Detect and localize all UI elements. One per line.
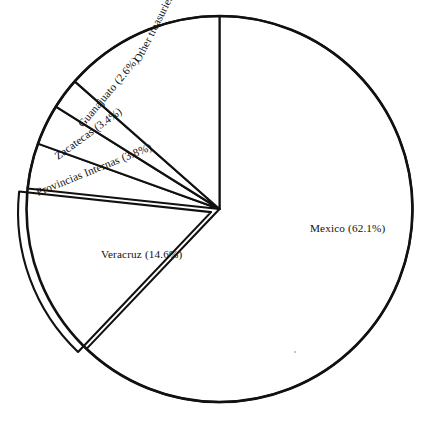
pie-label-veracruz: Veracruz (14.6%) [101, 248, 182, 261]
pie-slice-group [18, 16, 412, 402]
pie-label-mexico: Mexico (62.1%) [310, 222, 386, 235]
scan-artifact-speck [294, 351, 296, 353]
pie-chart-figure: Mexico (62.1%)Veracruz (14.6%)Provincias… [0, 0, 432, 426]
pie-chart-canvas: Mexico (62.1%)Veracruz (14.6%)Provincias… [0, 0, 432, 426]
